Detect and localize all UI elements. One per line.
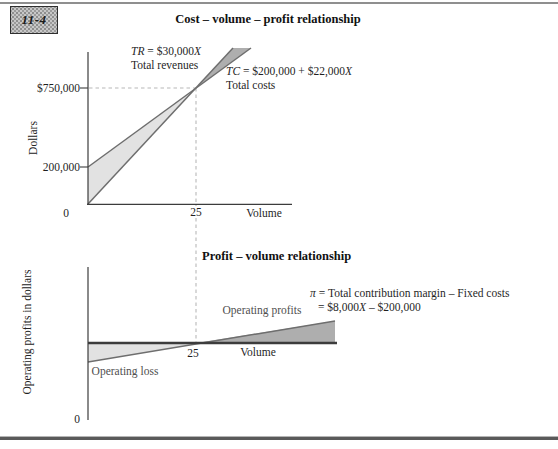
bottom-x-axis-title: Volume <box>228 346 288 360</box>
operating-profits-label: Operating profits <box>218 304 306 318</box>
top-chart-title: Cost – volume – profit relationship <box>128 13 408 27</box>
tr-description: Total revenues <box>131 59 201 73</box>
exhibit-figure: 11-4 Cost – volume – profit relationship… <box>0 0 558 449</box>
y-tick-label-750000: $750,000 <box>18 82 80 96</box>
y-tick-label-200000: 200,000 <box>18 161 80 175</box>
bottom-origin-label: 0 <box>71 413 83 427</box>
tc-formula: TC = $200,000 + $22,000X <box>226 65 352 79</box>
bottom-y-axis-title: Operating profits in dollars <box>21 270 33 395</box>
top-x-axis-title: Volume <box>234 207 294 221</box>
top-x-tick-25: 25 <box>187 206 205 220</box>
bottom-x-tick-25: 25 <box>184 347 202 361</box>
pi-formula-line1: π = Total contribution margin – Fixed co… <box>310 287 509 301</box>
top-y-axis-title: Dollars <box>27 121 39 155</box>
operating-loss-label: Operating loss <box>90 365 160 379</box>
tr-formula-label: TR = $30,000X Total revenues <box>131 45 201 72</box>
pi-formula-line2: = $8,000X – $200,000 <box>318 301 421 315</box>
tc-formula-label: TC = $200,000 + $22,000X Total costs <box>226 65 352 92</box>
bottom-rule <box>0 436 558 440</box>
tc-description: Total costs <box>226 79 352 93</box>
top-origin-label: 0 <box>60 207 72 221</box>
tr-formula: TR = $30,000X <box>131 45 201 59</box>
bottom-chart-title: Profit – volume relationship <box>202 250 351 264</box>
